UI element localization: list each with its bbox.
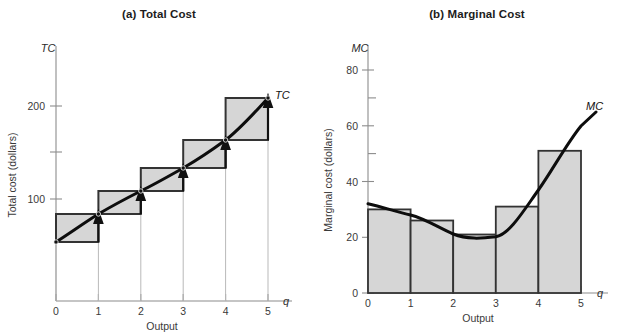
y-tick-label-20: 20 <box>346 231 358 243</box>
y-tick-label-100: 100 <box>27 193 45 205</box>
x-tick-label-1: 1 <box>408 297 414 309</box>
x-axis-title: Output <box>462 312 494 324</box>
x-tick-label-4: 4 <box>535 297 541 309</box>
x-tick-label-2: 2 <box>450 297 456 309</box>
panel-total-cost: (a) Total Cost 100 200 TC 0 1 2 3 4 <box>0 0 318 332</box>
y-axis-title: Total cost (dollars) <box>6 132 18 217</box>
x-axis-title: Output <box>146 320 178 332</box>
tc-curve-label: TC <box>275 89 290 101</box>
x-axis-symbol-q: q <box>283 295 290 307</box>
y-tick-label-60: 60 <box>346 120 358 132</box>
x-tick-label-0: 0 <box>365 297 371 309</box>
y-tick-label-0: 0 <box>352 287 358 299</box>
mc-bar-5 <box>538 151 581 293</box>
y-axis-symbol-tc: TC <box>41 42 56 54</box>
y-axis-symbol-mc: MC <box>351 42 368 54</box>
x-tick-label-1: 1 <box>95 305 101 317</box>
y-tick-label-200: 200 <box>27 100 45 112</box>
mc-bar-3 <box>453 235 496 294</box>
x-tick-label-4: 4 <box>223 305 229 317</box>
x-tick-label-5: 5 <box>265 305 271 317</box>
marginal-cost-plot: 0 20 40 60 80 MC 0 1 2 3 4 5 q Output <box>318 0 636 332</box>
mc-bar-1 <box>368 209 411 293</box>
y-tick-label-40: 40 <box>346 176 358 188</box>
x-tick-label-0: 0 <box>53 305 59 317</box>
total-cost-plot: 100 200 TC 0 1 2 3 4 5 q Output Total co… <box>0 0 318 332</box>
cost-curves-figure: (a) Total Cost 100 200 TC 0 1 2 3 4 <box>0 0 636 332</box>
panel-marginal-cost: (b) Marginal Cost 0 20 40 60 80 MC <box>318 0 636 332</box>
mc-curve-label: MC <box>586 100 603 112</box>
x-axis-symbol-q: q <box>597 287 604 299</box>
x-tick-label-2: 2 <box>138 305 144 317</box>
x-tick-label-3: 3 <box>180 305 186 317</box>
y-axis-title: Marginal cost (dollars) <box>322 128 334 231</box>
x-tick-label-5: 5 <box>578 297 584 309</box>
x-tick-label-3: 3 <box>493 297 499 309</box>
y-tick-label-80: 80 <box>346 64 358 76</box>
